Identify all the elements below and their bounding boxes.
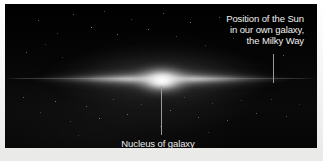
- star: [219, 17, 220, 18]
- star: [176, 36, 177, 37]
- star: [57, 33, 58, 34]
- star: [286, 116, 287, 117]
- star: [208, 132, 209, 133]
- galaxy-figure: Position of the Sun in our own galaxy, t…: [0, 0, 323, 161]
- nucleus-label: Nucleus of galaxy: [5, 138, 317, 148]
- star: [104, 11, 105, 12]
- star: [73, 14, 74, 15]
- star: [198, 117, 199, 118]
- sun-label-line-3: the Milky Way: [226, 35, 304, 46]
- star: [78, 135, 79, 136]
- sun-pointer-line: [273, 54, 274, 83]
- nucleus-pointer-line: [161, 86, 162, 135]
- sky-plate: Position of the Sun in our own galaxy, t…: [5, 4, 317, 148]
- star: [38, 20, 39, 21]
- nucleus-label-text: Nucleus of galaxy: [5, 138, 311, 148]
- galaxy-nucleus: [145, 73, 179, 88]
- sun-position-label: Position of the Sun in our own galaxy, t…: [226, 13, 304, 46]
- star: [131, 19, 132, 20]
- star: [227, 120, 228, 121]
- star: [117, 34, 118, 35]
- star: [163, 13, 164, 14]
- star: [70, 121, 71, 122]
- sun-label-line-1: Position of the Sun: [226, 13, 304, 24]
- sun-label-line-2: in our own galaxy,: [226, 24, 304, 35]
